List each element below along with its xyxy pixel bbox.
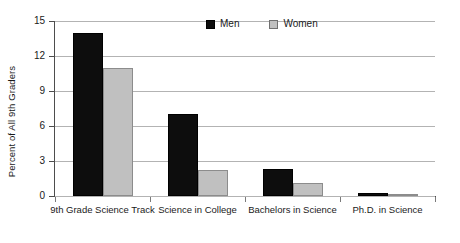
y-tick-label: 6 [5, 121, 45, 131]
y-tick-mark [49, 21, 55, 22]
legend-label-women: Women [283, 19, 317, 29]
bar-women-2 [293, 183, 323, 196]
y-tick-mark [49, 91, 55, 92]
legend: Men Women [206, 19, 318, 29]
bar-men-0 [73, 33, 103, 196]
legend-label-men: Men [220, 19, 239, 29]
bar-women-3 [388, 194, 418, 196]
y-tick-mark [49, 126, 55, 127]
x-tick-mark [340, 197, 341, 202]
bar-women-0 [103, 68, 133, 196]
legend-swatch-women-icon [269, 20, 278, 29]
y-tick-label: 9 [5, 86, 45, 96]
x-tick-mark [245, 197, 246, 202]
gridline [55, 56, 435, 57]
x-tick-mark [435, 197, 436, 202]
y-tick-label: 12 [5, 51, 45, 61]
bar-men-1 [168, 114, 198, 196]
y-tick-mark [49, 161, 55, 162]
legend-swatch-men-icon [206, 20, 215, 29]
x-axis-label-3: Ph.D. in Science [332, 203, 443, 216]
bar-men-2 [263, 169, 293, 196]
legend-item-men: Men [206, 19, 239, 29]
x-tick-mark [55, 197, 56, 202]
y-tick-label: 3 [5, 156, 45, 166]
bar-men-3 [358, 193, 388, 197]
bar-chart: Percent of All 9th Graders 03691215 9th … [0, 0, 460, 243]
y-tick-mark [49, 56, 55, 57]
plot-area [55, 21, 435, 196]
legend-item-women: Women [269, 19, 317, 29]
bar-women-1 [198, 170, 228, 196]
y-tick-label: 15 [5, 16, 45, 26]
x-tick-mark [150, 197, 151, 202]
y-tick-label: 0 [5, 191, 45, 201]
